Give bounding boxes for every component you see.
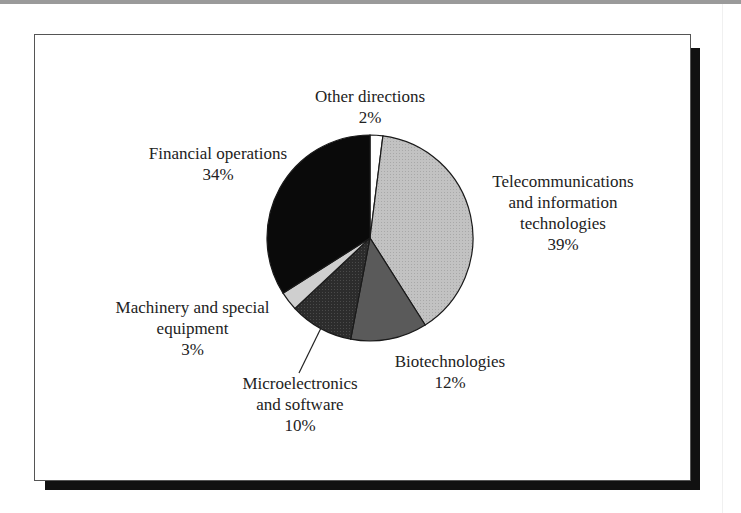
label-financial-operations: Financial operations 34% xyxy=(128,143,308,185)
label-financial-name: Financial operations xyxy=(128,143,308,164)
label-biotechnologies: Biotechnologies 12% xyxy=(380,351,520,393)
label-telecom-line3: technologies xyxy=(468,213,658,234)
pie-chart xyxy=(0,0,741,513)
label-machinery-line2: equipment xyxy=(100,318,285,339)
label-telecom-line1: Telecommunications xyxy=(468,171,658,192)
label-machinery-pct: 3% xyxy=(100,339,285,360)
label-micro-line2: and software xyxy=(220,394,380,415)
label-machinery-line1: Machinery and special xyxy=(100,297,285,318)
label-machinery: Machinery and special equipment 3% xyxy=(100,297,285,360)
label-telecom-line2: and information xyxy=(468,192,658,213)
label-other-name: Other directions xyxy=(305,86,435,107)
label-financial-pct: 34% xyxy=(128,164,308,185)
label-biotech-pct: 12% xyxy=(380,372,520,393)
label-other-pct: 2% xyxy=(305,107,435,128)
label-micro-pct: 10% xyxy=(220,415,380,436)
label-microelectronics: Microelectronics and software 10% xyxy=(220,373,380,436)
label-micro-line1: Microelectronics xyxy=(220,373,380,394)
label-other-directions: Other directions 2% xyxy=(305,86,435,128)
label-biotech-name: Biotechnologies xyxy=(380,351,520,372)
label-telecom: Telecommunications and information techn… xyxy=(468,171,658,255)
label-telecom-pct: 39% xyxy=(468,234,658,255)
leader-line-micro xyxy=(299,328,321,373)
